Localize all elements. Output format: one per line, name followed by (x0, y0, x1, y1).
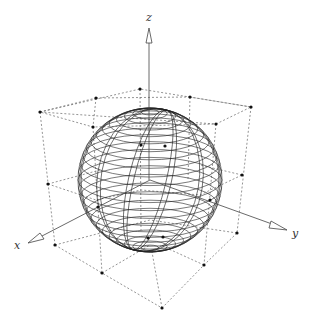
z-axis-label: z (145, 11, 152, 24)
y-arrow-icon (269, 221, 287, 230)
y-axis-label: y (291, 227, 299, 240)
x-axis-label: x (14, 239, 21, 252)
x-arrow-icon (28, 233, 44, 243)
z-arrow-icon (146, 28, 152, 43)
sphere-cube-diagram: z x y (0, 0, 318, 327)
cube-vertices (38, 87, 252, 309)
figure-canvas: z x y (0, 0, 318, 327)
